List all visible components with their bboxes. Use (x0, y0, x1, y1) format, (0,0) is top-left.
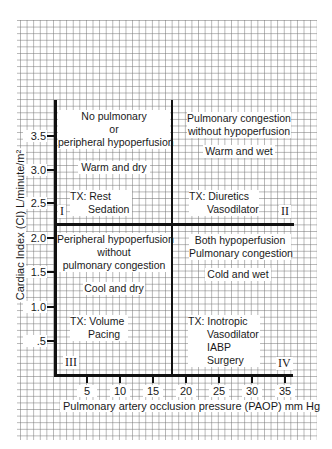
y-tick (47, 306, 55, 308)
q4-title-line: Both hypoperfusion (189, 234, 291, 247)
x-tick-label: 35 (275, 385, 295, 397)
q3-state: Cool and dry (83, 282, 145, 295)
y-tick-label: 1.5 (23, 266, 47, 278)
y-tick-label: 2.0 (23, 232, 47, 244)
q4-numeral: IV (276, 357, 293, 370)
q1-title-line: No pulmonary (58, 110, 170, 123)
y-tick-label: 1.0 (23, 301, 47, 313)
x-axis-title: Pulmonary artery occlusion pressure (PAO… (60, 400, 323, 412)
q3-title: Peripheral hypoperfusion without pulmona… (57, 233, 171, 272)
q4-tx-line: TX: Inotropic (188, 315, 260, 328)
y-tick-label: 3.5 (23, 130, 47, 142)
q3-title-line: pulmonary congestion (57, 259, 171, 272)
q1-title: No pulmonary or peripheral hypoperfusion (58, 110, 170, 149)
x-tick (185, 375, 187, 383)
q1-state-label: Warm and dry (78, 161, 150, 174)
x-axis-line (54, 374, 293, 377)
y-tick-label: .5 (23, 335, 47, 347)
x-tick-label: 30 (242, 385, 262, 397)
q3-title-line: without (57, 246, 171, 259)
q2-title-line: without hypoperfusion (187, 125, 291, 138)
y-tick (47, 169, 55, 171)
y-tick (47, 340, 55, 342)
q3-numeral: III (63, 356, 79, 369)
x-tick (119, 375, 121, 383)
q2-state-label: Warm and wet (203, 145, 275, 158)
q4-state: Cold and wet (205, 268, 271, 281)
q4-treatment: TX: Inotropic Vasodilator IABP Surgery (188, 315, 260, 367)
q3-tx-line: TX: Volume (70, 315, 128, 328)
q1-tx-line: Sedation (70, 203, 132, 216)
q4-tx-line: Vasodilator (188, 328, 260, 341)
y-tick (47, 271, 55, 273)
x-tick-label: 5 (77, 385, 97, 397)
x-tick-label: 20 (176, 385, 196, 397)
x-tick-label: 15 (143, 385, 163, 397)
q1-tx-line: TX: Rest (70, 190, 132, 203)
q4-title: Both hypoperfusion Pulmonary congestion (189, 234, 291, 260)
horizontal-divider-ci-2-2 (54, 223, 294, 226)
q3-title-line: Peripheral hypoperfusion (57, 233, 171, 246)
q1-numeral: I (58, 205, 66, 218)
hemodynamic-quadrant-diagram: .5 1.0 1.5 2.0 2.5 3.0 3.5 5 10 15 20 25… (0, 0, 332, 449)
x-tick (86, 375, 88, 383)
q2-treatment: TX: Diuretics Vasodilator (189, 190, 259, 216)
q1-title-line: peripheral hypoperfusion (58, 136, 170, 149)
q4-tx-line: IABP (188, 341, 260, 354)
q2-numeral: II (279, 205, 291, 218)
q2-state: Warm and wet (203, 145, 275, 158)
y-tick (47, 202, 55, 204)
q4-state-label: Cold and wet (205, 268, 271, 281)
q3-state-label: Cool and dry (83, 282, 145, 295)
y-axis-title: Cardiac Index (CI) L/minute/m² (14, 148, 26, 302)
q2-title: Pulmonary congestion without hypoperfusi… (187, 112, 291, 138)
q2-tx-line: TX: Diuretics (189, 190, 259, 203)
q1-state: Warm and dry (78, 161, 150, 174)
q4-tx-line: Surgery (188, 354, 260, 367)
x-tick-label: 10 (110, 385, 130, 397)
y-tick-label: 3.0 (23, 164, 47, 176)
q4-title-line: Pulmonary congestion (189, 247, 291, 260)
x-tick (251, 375, 253, 383)
x-tick (284, 375, 286, 383)
x-tick (218, 375, 220, 383)
q3-treatment: TX: Volume Pacing (70, 315, 128, 341)
y-tick-label: 2.5 (23, 197, 47, 209)
q2-title-line: Pulmonary congestion (187, 112, 291, 125)
graph-paper-grid (17, 20, 317, 440)
q1-title-line: or (58, 123, 170, 136)
x-tick-label: 25 (209, 385, 229, 397)
x-tick (152, 375, 154, 383)
y-tick (47, 135, 55, 137)
q2-tx-line: Vasodilator (189, 203, 259, 216)
y-tick (47, 237, 55, 239)
q1-treatment: TX: Rest Sedation (70, 190, 132, 216)
q3-tx-line: Pacing (70, 328, 128, 341)
